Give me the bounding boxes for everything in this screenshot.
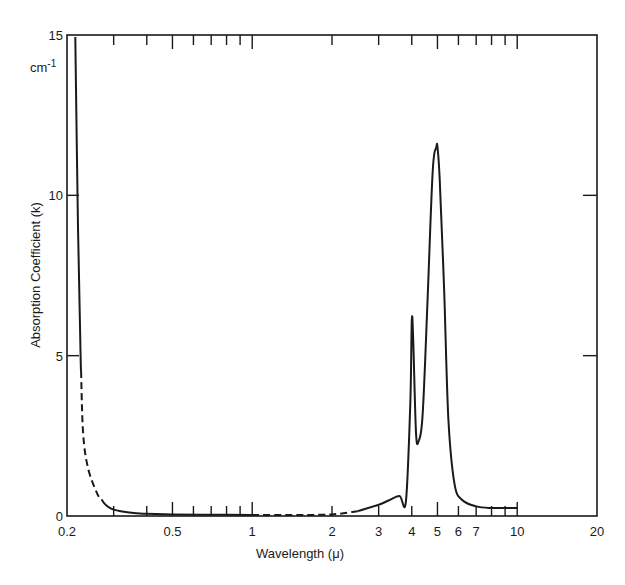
curve-segment-solid [75,37,81,372]
x-tick-label: 7 [473,524,480,539]
y-tick-label: 5 [56,349,63,364]
x-axis-title: Wavelength (μ) [256,546,344,561]
curve-segment-dashed [81,371,101,499]
x-tick-labels: 0.20.512345671020 [58,524,604,539]
x-tick-label: 20 [590,524,604,539]
plot-frame [67,35,597,516]
x-tick-label: 4 [408,524,415,539]
y-tick-labels: 051015 [49,28,63,524]
x-tick-label: 0.2 [58,524,76,539]
curve-segment-solid [358,144,518,511]
y-unit-label: cm-1 [30,58,57,75]
x-tick-label: 5 [434,524,441,539]
y-tick-label: 0 [56,509,63,524]
x-tick-label: 0.5 [163,524,181,539]
curve-segment-solid [102,499,253,515]
x-tick-label: 6 [455,524,462,539]
y-tick-label: 15 [49,28,63,43]
curve-segment-dashed [252,511,358,515]
absorption-curve [75,37,517,515]
x-tick-label: 10 [510,524,524,539]
x-tick-label: 1 [249,524,256,539]
x-tick-label: 2 [328,524,335,539]
y-axis-title: Absorption Coefficient (k) [28,202,43,348]
axis-ticks [67,35,597,516]
absorption-chart: 0.20.512345671020 051015 cm-1 Wavelength… [0,0,625,585]
y-tick-label: 10 [49,188,63,203]
x-tick-label: 3 [375,524,382,539]
